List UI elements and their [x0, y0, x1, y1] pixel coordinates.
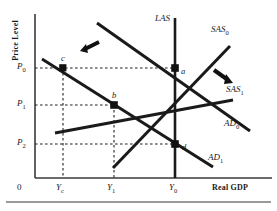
sas-shift-arrow [214, 70, 233, 84]
ad1-label: AD1 [208, 152, 223, 164]
x-tick-yc: Yc [56, 182, 64, 194]
point-label-c: c [61, 53, 65, 63]
ad-shift-arrow-head [80, 44, 88, 53]
sas1-helper [55, 53, 233, 133]
diagram-canvas [0, 0, 277, 211]
sas1-label-text: SAS [226, 84, 241, 94]
ad0-label: AD0 [224, 118, 239, 130]
ad0-label-sub: 0 [236, 123, 239, 130]
sas1-label-sub: 1 [241, 89, 244, 96]
las-label-text: LAS [155, 13, 170, 23]
point-label-b: b [112, 90, 116, 100]
x-axis-label: Real GDP [212, 183, 248, 192]
y-tick-p2: P2 [17, 137, 26, 149]
sas0-label-text: SAS [211, 24, 226, 34]
ad1-label-text: AD [208, 152, 220, 162]
sas-shift-arrow-head [224, 74, 233, 84]
shift-arrows [80, 42, 233, 84]
y-tick-p0-sub: 0 [23, 66, 26, 73]
ad1-label-sub: 1 [220, 157, 223, 164]
y-tick-p0: P0 [17, 61, 26, 73]
origin-label: 0 [17, 182, 22, 192]
ad-shift-arrow [80, 42, 99, 53]
y-tick-p1: P1 [17, 98, 26, 110]
y-tick-p1-sub: 1 [23, 103, 26, 110]
point-marker-c [59, 64, 66, 71]
point-marker-d [171, 140, 179, 148]
point-marker-a [171, 64, 179, 72]
x-tick-y1-sub: 1 [112, 187, 115, 194]
x-tick-yc-sub: c [61, 187, 64, 194]
point-marker-b [110, 101, 118, 109]
las-label: LAS [155, 13, 170, 23]
point-label-d: d [182, 142, 186, 152]
ad-shift-arrow-shaft [85, 42, 99, 49]
y-tick-p2-sub: 2 [23, 142, 26, 149]
x-tick-y1: Y1 [107, 182, 115, 194]
x-tick-y0: Y0 [169, 182, 177, 194]
x-tick-y0-sub: 0 [174, 187, 177, 194]
sas0-label-sub: 0 [226, 29, 229, 36]
sas0-label: SAS0 [211, 24, 229, 36]
sas1-label: SAS1 [226, 84, 244, 96]
ad0-label-text: AD [224, 118, 236, 128]
point-label-a: a [181, 66, 185, 76]
macroeconomic-as-ad-diagram: Price Level Real GDP 0 P0 P1 P2 Yc Y1 Y0… [0, 0, 277, 211]
